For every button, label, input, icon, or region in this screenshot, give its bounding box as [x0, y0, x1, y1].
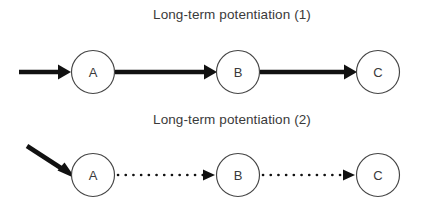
panel-2-node-c-label: C [373, 168, 382, 183]
panel-2-title: Long-term potentiation (2) [153, 112, 311, 127]
panel-2-node-b: B [217, 154, 260, 197]
panel-2-node-a: A [72, 154, 115, 197]
long-term-potentiation-diagram: Long-term potentiation (1) A B [0, 0, 427, 210]
panel-2-node-c: C [357, 154, 400, 197]
panel-2-node-b-label: B [234, 168, 243, 183]
panel-1-node-a: A [72, 51, 115, 94]
panel-1-node-a-label: A [89, 65, 98, 80]
panel-1-node-c-label: C [373, 65, 382, 80]
panel-1-node-c: C [357, 51, 400, 94]
panel-1-node-b-label: B [234, 65, 243, 80]
panel-1-title: Long-term potentiation (1) [153, 7, 311, 22]
panel-2-node-a-label: A [89, 168, 98, 183]
panel-1-node-b: B [217, 51, 260, 94]
